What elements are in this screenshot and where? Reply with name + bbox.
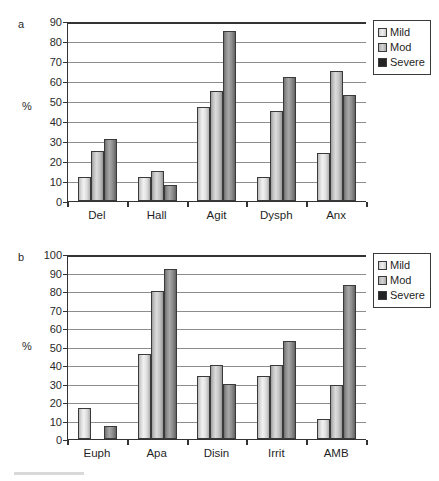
bar-severe-anx [343, 95, 356, 201]
y-tick-mark [63, 366, 67, 367]
bar-group [128, 255, 188, 439]
bar-mod-anx [330, 71, 343, 201]
legend-swatch-mod-icon [378, 276, 387, 285]
y-tick-label: 50 [20, 342, 62, 354]
bar-severe-amb [343, 285, 356, 439]
legend-swatch-severe-icon [378, 58, 387, 67]
y-tick-mark [63, 255, 67, 256]
x-tick-mark [127, 202, 129, 207]
bar-severe-hall [164, 185, 177, 201]
legend-item-mod: Mod [378, 40, 425, 55]
legend-label: Severe [390, 57, 425, 68]
legend-swatch-severe-icon [378, 291, 387, 300]
y-tick-label: 60 [20, 323, 62, 335]
panel-b-x-axis-labels: EuphApaDisinIrritAMB [67, 447, 366, 459]
x-axis-label: Del [67, 209, 127, 221]
y-tick-mark [63, 182, 67, 183]
x-tick-mark [67, 202, 69, 207]
x-axis-label: Agit [187, 209, 247, 221]
y-tick-mark [63, 82, 67, 83]
y-tick-mark [63, 311, 67, 312]
y-tick-mark [63, 122, 67, 123]
bar-group [306, 255, 366, 439]
y-tick-label: 0 [20, 434, 62, 446]
y-tick-mark [63, 42, 67, 43]
y-tick-mark [63, 292, 67, 293]
x-axis-label: Euph [67, 447, 127, 459]
x-axis-label: Irrit [246, 447, 306, 459]
y-tick-label: 90 [20, 16, 62, 28]
legend-item-mild: Mild [378, 258, 425, 273]
bar-severe-euph [104, 426, 117, 439]
legend-label: Mild [390, 27, 410, 38]
y-tick-label: 20 [20, 156, 62, 168]
x-axis-label: Dysph [246, 209, 306, 221]
panel-a-plot-area [67, 22, 366, 202]
legend-label: Mild [390, 260, 410, 271]
legend-item-mild: Mild [378, 25, 425, 40]
x-tick-mark [67, 440, 69, 445]
bar-mod-apa [151, 291, 164, 439]
legend-swatch-mild-icon [378, 261, 387, 270]
bar-mild-disin [197, 376, 210, 439]
y-tick-mark [63, 422, 67, 423]
y-tick-label: 0 [20, 196, 62, 208]
bar-severe-irrit [283, 341, 296, 439]
legend-swatch-mod-icon [378, 43, 387, 52]
x-tick-mark [187, 440, 189, 445]
bar-mod-agit [210, 91, 223, 201]
legend-item-severe: Severe [378, 288, 425, 303]
bar-group [68, 255, 128, 439]
bar-severe-dysph [283, 77, 296, 201]
y-tick-label: 10 [20, 176, 62, 188]
bar-mild-hall [138, 177, 151, 201]
legend-item-mod: Mod [378, 273, 425, 288]
bar-group [187, 255, 247, 439]
x-tick-mark [366, 440, 368, 445]
panel-b-x-tick-marks [67, 440, 366, 445]
bar-severe-agit [223, 31, 236, 201]
bar-group [128, 22, 188, 201]
bar-mod-irrit [270, 365, 283, 439]
x-axis-label: Anx [306, 209, 366, 221]
x-tick-mark [187, 202, 189, 207]
bar-mod-dysph [270, 111, 283, 201]
panel-a-bar-groups [68, 22, 366, 201]
bar-severe-apa [164, 269, 177, 439]
y-tick-label: 40 [20, 360, 62, 372]
legend-label: Mod [390, 42, 411, 53]
x-axis-label: Disin [187, 447, 247, 459]
y-tick-label: 100 [20, 249, 62, 261]
panel-b-plot-area [67, 255, 366, 440]
y-tick-label: 50 [20, 96, 62, 108]
x-axis-label: Apa [127, 447, 187, 459]
x-tick-mark [306, 202, 308, 207]
x-tick-mark [246, 440, 248, 445]
bar-mod-hall [151, 171, 164, 201]
bar-group [187, 22, 247, 201]
y-tick-label: 40 [20, 116, 62, 128]
bar-group [247, 255, 307, 439]
y-tick-mark [63, 274, 67, 275]
y-tick-mark [63, 329, 67, 330]
legend-swatch-mild-icon [378, 28, 387, 37]
chart-panel-a: a % 0102030405060708090 DelHallAgitDysph… [0, 0, 439, 238]
y-tick-mark [63, 142, 67, 143]
panel-a-x-tick-marks [67, 202, 366, 207]
y-tick-mark [63, 22, 67, 23]
bar-mild-dysph [257, 177, 270, 201]
bar-mild-apa [138, 354, 151, 439]
panel-b-legend: MildModSevere [373, 253, 431, 308]
bar-mild-irrit [257, 376, 270, 439]
x-tick-mark [366, 202, 368, 207]
y-tick-label: 20 [20, 397, 62, 409]
panel-b-bar-groups [68, 255, 366, 439]
y-tick-mark [63, 348, 67, 349]
y-tick-mark [63, 385, 67, 386]
y-tick-label: 60 [20, 76, 62, 88]
bar-mild-del [78, 177, 91, 201]
bar-mod-del [91, 151, 104, 201]
bar-severe-disin [223, 384, 236, 440]
bar-mild-anx [317, 153, 330, 201]
bar-group [68, 22, 128, 201]
